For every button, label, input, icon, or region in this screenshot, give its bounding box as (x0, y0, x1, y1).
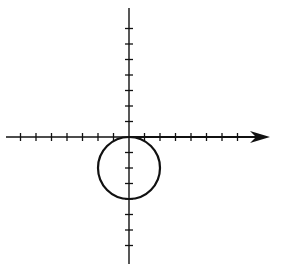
coordinate-plane-diagram (0, 0, 287, 276)
